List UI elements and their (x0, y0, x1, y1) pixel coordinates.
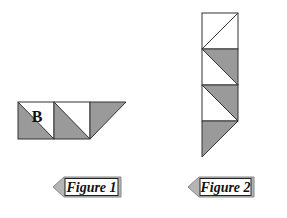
figure-2-cell-2 (202, 49, 238, 85)
figure-2 (202, 13, 238, 157)
figures-canvas: B Fig (0, 0, 287, 218)
figure-2-cell-4 (202, 121, 238, 157)
figure-1-cell-3 (90, 102, 126, 139)
figure-2-label: Figure 2 (199, 180, 250, 195)
figure-2-label-tag: Figure 2 (188, 177, 254, 197)
cell-letter: B (32, 108, 43, 125)
figure-1-label-tag: Figure 1 (53, 177, 121, 197)
figure-2-cell-3 (202, 85, 238, 121)
figure-1: B (18, 102, 126, 139)
figure-2-cell-1 (202, 13, 238, 49)
figure-1-cell-2 (54, 102, 90, 139)
figure-1-label: Figure 1 (65, 180, 116, 195)
